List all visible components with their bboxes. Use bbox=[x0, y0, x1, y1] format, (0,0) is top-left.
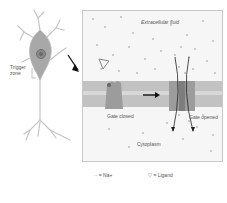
extracellular-label: Extracellular fluid bbox=[141, 19, 179, 25]
cytoplasm-label: Cytoplasm bbox=[137, 141, 161, 147]
ion-channel-diagram bbox=[83, 11, 222, 161]
ligand-icon bbox=[99, 59, 109, 69]
sodium-legend: ·· = Na+ bbox=[94, 172, 112, 178]
ion-channel-panel: Extracellular fluid Cytoplasm Gate close… bbox=[82, 10, 223, 162]
closed-channel-icon bbox=[105, 81, 123, 109]
gate-opened-label: Gate opened bbox=[189, 114, 218, 120]
trigger-label-line2: zone bbox=[10, 70, 26, 76]
ligand-icon: ▽ bbox=[148, 172, 152, 178]
trigger-zone-label: Trigger zone bbox=[10, 64, 26, 76]
gate-closed-label: Gate closed bbox=[107, 113, 134, 119]
neuron-illustration bbox=[0, 0, 80, 203]
sodium-legend-label: = Na+ bbox=[99, 172, 113, 178]
ligand-legend-label: = Ligand bbox=[153, 172, 172, 178]
ligand-legend: ▽ = Ligand bbox=[148, 172, 173, 178]
open-channel-icon bbox=[169, 57, 195, 132]
sodium-dot-icon: ·· bbox=[94, 172, 97, 178]
